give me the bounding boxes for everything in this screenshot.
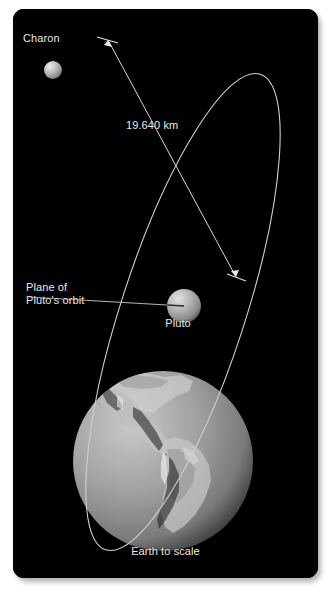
orbital-plane-label-line2: Pluto's orbit [26,294,84,306]
orbital-plane-label: Plane ofPluto's orbit [26,281,84,307]
pluto-plane-line [167,305,184,306]
pluto-label: Pluto [155,317,201,330]
charon-sphere [44,61,62,79]
distance-label: 19.640 km [126,119,178,132]
earth-scale-caption: Earth to scale [93,545,238,558]
figure-root: Charon 19.640 km Plane ofPluto's orbit P… [0,0,332,594]
diagram-panel: Charon 19.640 km Plane ofPluto's orbit P… [13,9,318,578]
orbital-plane-label-line1: Plane of [26,281,67,293]
charon-label: Charon [23,32,60,45]
earth-sphere [73,371,253,551]
